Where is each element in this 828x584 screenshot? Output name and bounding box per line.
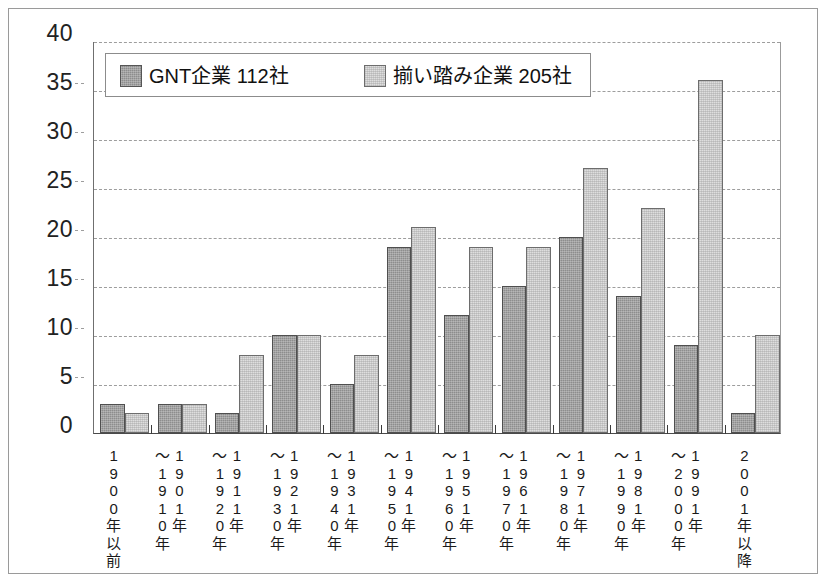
x-axis-label-char: 1	[343, 500, 360, 518]
x-axis-label-char: 1	[154, 465, 171, 483]
x-axis-label-char: 9	[383, 482, 400, 500]
x-axis-label-char: 9	[269, 482, 286, 500]
legend-label-0: GNT企業 112社	[149, 65, 289, 87]
x-axis-label-char: 1	[498, 465, 515, 483]
bar-series-0-category-9	[616, 296, 641, 433]
bar-series-0-category-11	[731, 413, 756, 433]
x-axis-label-char: 1	[154, 500, 171, 518]
x-tick-5	[438, 425, 439, 434]
x-axis-label-char: 0	[736, 465, 753, 483]
x-axis-label-char: 年	[211, 535, 228, 553]
x-axis-label-char: 9	[613, 482, 630, 500]
x-axis-label-char: 年	[670, 535, 687, 553]
x-axis-label-char: 1	[572, 447, 589, 465]
bar-series-1-category-6	[469, 247, 494, 433]
x-axis-label-char: 0	[736, 482, 753, 500]
x-axis-label-char: 年	[326, 535, 343, 553]
x-axis-label-column: 〜1940年	[326, 447, 343, 552]
y-tick-label-5: 5	[27, 365, 73, 388]
x-axis-label-char: 7	[572, 482, 589, 500]
x-axis-label-char: 〜	[383, 447, 400, 465]
y-tick-mark-25	[75, 181, 84, 182]
y-tick-label-25: 25	[27, 169, 73, 192]
bar-series-0-category-1	[158, 404, 183, 433]
x-axis-label-char: 9	[630, 465, 647, 483]
y-tick-label-20: 20	[27, 218, 73, 241]
legend-swatch-icon-0	[120, 65, 142, 87]
bar-series-1-category-3	[297, 335, 322, 433]
x-axis-label-0: 1900年以前	[85, 447, 142, 570]
x-tick-7	[553, 425, 554, 434]
legend-entry-0[interactable]: GNT企業 112社	[120, 63, 289, 88]
x-axis-label-char: 年	[458, 517, 475, 535]
x-axis-label-char: 前	[105, 552, 122, 570]
x-axis-label-char: 0	[498, 517, 515, 535]
x-axis-label-char: 0	[670, 500, 687, 518]
x-axis-label-column: 〜1980年	[555, 447, 572, 552]
x-axis-label-char: 1	[458, 500, 475, 518]
x-axis-label-char: 1	[400, 500, 417, 518]
x-axis-label-char: 1	[228, 447, 245, 465]
bar-series-0-category-4	[330, 384, 355, 433]
bar-series-0-category-3	[272, 335, 297, 433]
bar-series-0-category-7	[502, 286, 527, 433]
x-axis-label-char: 1	[572, 500, 589, 518]
gridline-10	[94, 336, 780, 337]
bar-series-1-category-7	[526, 247, 551, 433]
x-axis-label-char: 1	[171, 447, 188, 465]
bar-series-1-category-11	[755, 335, 780, 433]
x-axis-label-char: 以	[736, 535, 753, 553]
x-axis-label-column: 〜1950年	[383, 447, 400, 552]
x-axis-label-char: 1	[171, 500, 188, 518]
y-tick-mark-35	[75, 83, 84, 84]
x-axis-label-column: 〜1970年	[498, 447, 515, 552]
x-axis-label-char: 〜	[269, 447, 286, 465]
x-tick-0	[151, 425, 152, 434]
x-axis-label-column: 1921年	[286, 447, 303, 535]
bar-series-0-category-2	[215, 413, 240, 433]
x-axis-label-column: 〜1930年	[269, 447, 286, 552]
x-axis-label-column: 1931年	[343, 447, 360, 535]
x-axis-label-char: 9	[555, 482, 572, 500]
x-axis-label-char: 年	[572, 517, 589, 535]
x-axis-label-char: 9	[105, 465, 122, 483]
x-axis-label-char: 年	[613, 535, 630, 553]
x-axis-label-char: 3	[343, 482, 360, 500]
y-tick-label-30: 30	[27, 120, 73, 143]
x-axis-label-char: 年	[515, 517, 532, 535]
x-axis-label-char: 〜	[613, 447, 630, 465]
bar-series-1-category-4	[354, 355, 379, 433]
y-tick-mark-30	[75, 132, 84, 133]
x-axis-label-char: 0	[171, 482, 188, 500]
bar-series-1-category-10	[698, 80, 723, 433]
x-tick-1	[209, 425, 210, 434]
x-axis-label-char: 1	[383, 465, 400, 483]
x-axis-label-column: 〜1990年	[613, 447, 630, 552]
x-axis-label-char: 1	[105, 447, 122, 465]
y-tick-mark-10	[75, 328, 84, 329]
bar-series-0-category-10	[674, 345, 699, 433]
x-axis-label-column: 1911年	[228, 447, 245, 535]
y-tick-label-40: 40	[27, 22, 73, 45]
x-axis-label-char: 0	[269, 517, 286, 535]
x-axis-label-char: 9	[171, 465, 188, 483]
y-tick-label-15: 15	[27, 267, 73, 290]
legend-entry-1[interactable]: 揃い踏み企業 205社	[364, 63, 572, 88]
bar-series-1-category-2	[239, 355, 264, 433]
x-tick-8	[610, 425, 611, 434]
x-axis-label-char: 〜	[326, 447, 343, 465]
bar-series-1-category-1	[182, 404, 207, 433]
x-axis-label-char: 9	[286, 465, 303, 483]
x-axis-label-char: 年	[228, 517, 245, 535]
x-axis-label-char: 1	[400, 447, 417, 465]
x-axis-label-char: 〜	[154, 447, 171, 465]
x-axis-label-8: 〜1980年1971年	[544, 447, 601, 552]
x-axis-label-char: 〜	[670, 447, 687, 465]
x-axis-label-char: 以	[105, 535, 122, 553]
x-axis-label-char: 0	[555, 517, 572, 535]
x-axis-label-char: 年	[736, 517, 753, 535]
x-axis-label-char: 0	[326, 517, 343, 535]
x-axis-label-char: 年	[269, 535, 286, 553]
x-axis-label-char: 年	[105, 517, 122, 535]
x-tick-2	[266, 425, 267, 434]
